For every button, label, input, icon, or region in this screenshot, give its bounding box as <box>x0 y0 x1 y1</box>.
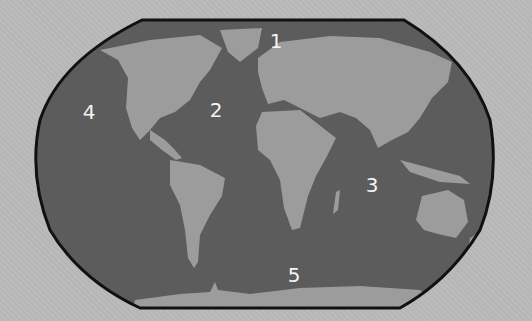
map-stage: 1 2 3 4 5 <box>0 0 532 321</box>
ocean-label-southern: 5 <box>288 263 301 287</box>
ocean-label-pacific: 4 <box>83 100 96 124</box>
ocean-label-indian: 3 <box>366 173 379 197</box>
world-map <box>0 0 532 321</box>
ocean-label-atlantic: 2 <box>210 98 223 122</box>
ocean-label-arctic: 1 <box>270 29 283 53</box>
